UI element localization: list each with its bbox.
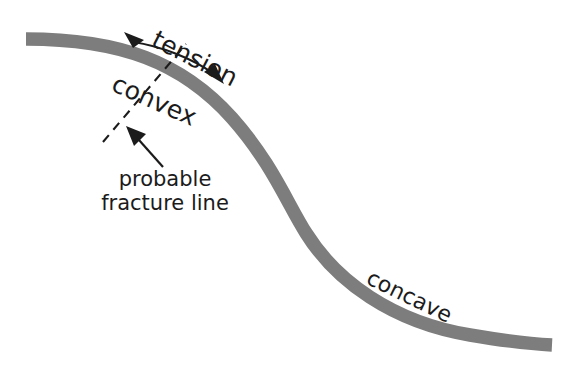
- diagram-canvas: tension convex concave probable fracture…: [0, 0, 577, 378]
- label-probable: probable: [119, 167, 212, 191]
- label-fracture-line: fracture line: [101, 191, 229, 215]
- flexure-diagram: tension convex concave probable fracture…: [0, 0, 577, 378]
